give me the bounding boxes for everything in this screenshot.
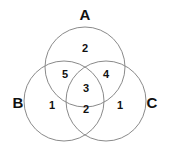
region-count-a-and-c: 4 (103, 69, 109, 80)
region-count-b-and-c: 2 (83, 104, 89, 115)
region-count-a-b-c: 3 (83, 83, 89, 94)
set-label-a: A (80, 7, 91, 22)
region-count-c-only: 1 (117, 100, 123, 111)
region-count-a-only: 2 (82, 43, 88, 54)
set-label-b: B (13, 95, 24, 110)
venn-circles-canvas (0, 0, 171, 151)
venn-diagram-figure: A B C 2 5 4 3 1 1 2 (0, 0, 171, 151)
region-count-b-only: 1 (49, 100, 55, 111)
set-label-c: C (147, 95, 158, 110)
region-count-a-and-b: 5 (62, 69, 68, 80)
